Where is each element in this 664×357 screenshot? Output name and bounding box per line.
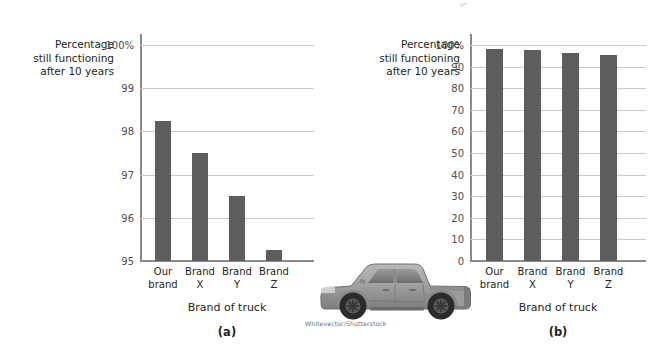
y-axis-caption-line-3: after 10 years (10, 65, 114, 79)
y-tick-label: 10 (451, 234, 464, 245)
y-tick-label: 70 (451, 104, 464, 115)
gridline-100: 100% (470, 45, 646, 46)
y-axis-line-a (140, 34, 142, 261)
y-tick-label: 95 (121, 256, 134, 267)
x-tick-label-our-brand: Our brand (480, 266, 509, 291)
bar-brand-z (600, 55, 617, 261)
y-tick-label: 98 (121, 126, 134, 137)
truck-illustration (316, 258, 474, 322)
x-axis-title-a: Brand of truck (140, 301, 314, 314)
y-tick-label: 100% (105, 40, 134, 51)
bar-brand-x (524, 50, 541, 261)
bar-brand-z (266, 250, 282, 261)
bar-our-brand (155, 121, 171, 261)
gridline-100: 100% (140, 45, 314, 46)
y-tick-label: 90 (451, 61, 464, 72)
gridline-95: 95 (140, 261, 314, 262)
y-tick-label: 100% (435, 40, 464, 51)
x-tick-label-brand-x: Brand X (518, 266, 548, 291)
y-tick-label: 50 (451, 148, 464, 159)
gridline-99: 99 (140, 88, 314, 89)
pickup-truck-icon (316, 258, 474, 322)
x-tick-label-brand-z: Brand Z (594, 266, 624, 291)
x-axis-title-b: Brand of truck (470, 301, 646, 314)
bar-brand-y (229, 196, 245, 261)
y-axis-caption-line-2: still functioning (356, 52, 460, 66)
x-tick-label-our-brand: Our brand (148, 266, 177, 291)
y-tick-label: 97 (121, 169, 134, 180)
image-credit: Whitevector/Shutterstock (305, 320, 387, 327)
x-tick-label-brand-z: Brand Z (259, 266, 289, 291)
y-axis-line-b (470, 34, 472, 261)
y-tick-label: 96 (121, 212, 134, 223)
y-axis-caption-line-2: still functioning (10, 52, 114, 66)
bar-brand-x (192, 153, 208, 261)
x-tick-label-brand-y: Brand Y (556, 266, 586, 291)
x-tick-label-brand-x: Brand X (185, 266, 215, 291)
figure-a: Percentage still functioning after 10 ye… (0, 0, 332, 357)
y-tick-label: 80 (451, 83, 464, 94)
y-axis-caption-a: Percentage still functioning after 10 ye… (10, 38, 114, 79)
x-tick-label-brand-y: Brand Y (222, 266, 252, 291)
panel-letter-a: (a) (140, 325, 314, 339)
y-tick-label: 60 (451, 126, 464, 137)
plot-area-b: 100% 90 80 70 60 50 40 30 20 10 0 (470, 45, 646, 261)
y-tick-label: 30 (451, 191, 464, 202)
bar-our-brand (486, 49, 503, 261)
bar-brand-y (562, 53, 579, 261)
panel-letter-b: (b) (470, 325, 646, 339)
gridline-0: 0 (470, 261, 646, 262)
y-axis-caption-line-1: Percentage (10, 38, 114, 52)
y-tick-label: 99 (121, 83, 134, 94)
y-axis-caption-line-3: after 10 years (356, 65, 460, 79)
y-tick-label: 20 (451, 212, 464, 223)
y-tick-label: 40 (451, 169, 464, 180)
plot-area-a: 100% 99 98 97 96 95 Our brand Brand X Br… (140, 45, 314, 261)
